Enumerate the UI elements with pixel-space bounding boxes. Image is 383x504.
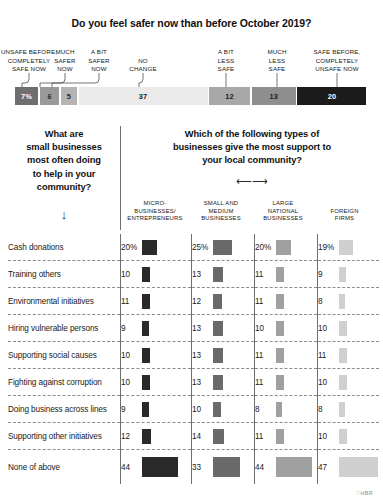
table-row: Environmental initiatives1112118 (8, 288, 379, 315)
cell-content: 9 (121, 402, 191, 417)
cell-bar (142, 402, 149, 417)
cell-bar (213, 240, 232, 255)
cell-bar (339, 321, 347, 336)
segment-callout-label: UNSAFE BEFORE,COMPLETELYSAFE NOW (1, 48, 57, 73)
segment-callout-label: NOCHANGE (129, 57, 156, 73)
cell-bar (339, 375, 347, 390)
cell-value: 11 (318, 351, 335, 360)
row-label: Supporting social causes (8, 342, 121, 369)
cell-value: 19% (318, 243, 335, 252)
cell-content: 11 (255, 375, 317, 390)
matrix-cell: 33 (192, 450, 255, 485)
cell-bar (339, 348, 347, 363)
left-question-text: What aresmall businessesmost often doing… (8, 128, 120, 194)
matrix-cell: 11 (255, 261, 318, 288)
matrix-column-headers: MICRO-BUSINESSES/ENTREPRENEURSSMALL ANDM… (120, 200, 375, 223)
table-row: Supporting social causes10131111 (8, 342, 379, 369)
matrix-cell: 13 (192, 342, 255, 369)
stacked-bar: 7%6537121320 (15, 87, 368, 105)
stacked-bar-segment: 20 (297, 87, 366, 105)
left-right-arrow-icon: ⟵⟶ (127, 176, 377, 187)
cell-content: 9 (318, 267, 379, 282)
cell-content: 13 (192, 321, 254, 336)
stacked-bar-segment: 5 (61, 87, 77, 105)
matrix-cell: 10 (121, 261, 192, 288)
matrix-column-header: LARGENATIONALBUSINESSES (252, 200, 314, 223)
cell-content: 9 (121, 321, 191, 336)
cell-value: 10 (121, 378, 138, 387)
cell-bar (339, 429, 347, 444)
cell-content: 10 (121, 348, 191, 363)
cell-value: 20% (121, 243, 138, 252)
matrix-cell: 10 (318, 315, 380, 342)
matrix-cell: 10 (121, 369, 192, 396)
matrix-column-header: MICRO-BUSINESSES/ENTREPRENEURS (120, 200, 190, 223)
cell-value: 11 (255, 378, 272, 387)
cell-content: 44 (255, 457, 317, 477)
cell-content: 13 (192, 348, 254, 363)
stacked-bar-segment: 6 (40, 87, 60, 105)
cell-bar (339, 402, 345, 417)
segment-callout-label: A BITSAFERNOW (88, 48, 109, 73)
matrix-cell: 13 (192, 369, 255, 396)
matrix-cell: 44 (255, 450, 318, 485)
row-label: Hiring vulnerable persons (8, 315, 121, 342)
cell-bar (142, 294, 150, 309)
cell-bar (276, 402, 282, 417)
cell-value: 10 (121, 351, 138, 360)
cell-bar (276, 375, 284, 390)
cell-content: 11 (255, 267, 317, 282)
cell-content: 12 (192, 294, 254, 309)
matrix-cell: 20% (255, 234, 318, 261)
matrix-cell: 11 (318, 342, 380, 369)
matrix-cell: 19% (318, 234, 380, 261)
matrix-cell: 10 (318, 423, 380, 450)
row-label: Doing business across lines (8, 396, 121, 423)
cell-bar (276, 457, 312, 477)
matrix-cell: 10 (121, 342, 192, 369)
cell-content: 11 (318, 348, 379, 363)
segment-value-label: 7% (21, 92, 32, 101)
cell-value: 10 (318, 324, 335, 333)
matrix-cell: 8 (318, 396, 380, 423)
cell-bar (276, 294, 284, 309)
segment-callout-label: MUCHSAFERNOW (54, 48, 75, 73)
stacked-bar-segment: 13 (252, 87, 296, 105)
cell-content: 8 (255, 402, 317, 417)
cell-content: 19% (318, 240, 379, 255)
matrix-table: Cash donations20%25%20%19%Training other… (8, 234, 379, 484)
matrix-cell: 11 (255, 288, 318, 315)
row-label: Cash donations (8, 234, 121, 261)
safety-chart: Do you feel safer now than before Octobe… (0, 0, 383, 105)
callout-leader-lines (0, 73, 383, 87)
matrix-cell: 10 (255, 315, 318, 342)
cell-value: 12 (121, 432, 138, 441)
matrix-cell: 13 (192, 261, 255, 288)
matrix-cell: 9 (318, 261, 380, 288)
table-row: Cash donations20%25%20%19% (8, 234, 379, 261)
cell-value: 33 (192, 463, 209, 472)
cell-content: 14 (192, 429, 254, 444)
cell-bar (339, 294, 345, 309)
segment-value-label: 5 (67, 92, 71, 101)
cell-bar (142, 267, 150, 282)
cell-content: 11 (255, 429, 317, 444)
matrix-cell: 10 (318, 369, 380, 396)
cell-bar (276, 240, 291, 255)
cell-content: 12 (121, 429, 191, 444)
matrix-cell: 11 (255, 423, 318, 450)
cell-bar (142, 429, 151, 444)
cell-value: 47 (318, 463, 335, 472)
cell-content: 25% (192, 240, 254, 255)
cell-content: 13 (192, 267, 254, 282)
row-label: Training others (8, 261, 121, 288)
right-question-text: Which of the following types ofbusinesse… (127, 128, 377, 168)
cell-value: 25% (192, 243, 209, 252)
matrix-cell: 9 (121, 396, 192, 423)
cell-value: 10 (121, 270, 138, 279)
cell-value: 10 (318, 378, 335, 387)
matrix-cell: 44 (121, 450, 192, 485)
cell-content: 8 (318, 402, 379, 417)
cell-content: 10 (318, 321, 379, 336)
cell-value: 11 (255, 270, 272, 279)
